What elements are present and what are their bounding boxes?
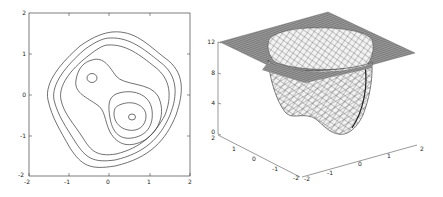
contour-plot: -2 -1 0 1 2 2 1 0 -1 -2 [0, 0, 220, 197]
y-tick-label: 2 [22, 9, 26, 16]
x-tick-label: -1 [64, 178, 70, 185]
global-min-contour [129, 114, 136, 120]
x-tick-label: -2 [304, 175, 310, 182]
x-tick-label: -2 [24, 178, 30, 185]
y-tick-label: 0 [22, 91, 26, 98]
x-tick-label: 0 [358, 160, 362, 167]
y-tick-label: -2 [293, 174, 299, 181]
contour-lines [47, 32, 181, 168]
x-tick-label: 1 [147, 178, 151, 185]
x-tick-label: 2 [420, 145, 424, 152]
y-tick-label: -2 [18, 171, 24, 178]
y-tick-label: -1 [20, 132, 26, 139]
x-tick-label: 1 [387, 152, 391, 159]
surface-plot: 12 8 4 0 2 1 0 -1 -2 -2 -1 0 1 2 [195, 0, 443, 197]
x-tick-label: -1 [327, 169, 333, 176]
x-tick-label: 0 [106, 178, 110, 185]
z-tick-label: 12 [207, 38, 215, 45]
x-tick-label: 2 [188, 178, 192, 185]
y-tick-label: 1 [22, 50, 26, 57]
z-tick-label: 8 [211, 69, 215, 76]
y-tick-label: 0 [252, 155, 256, 162]
y-tick-label: -1 [272, 165, 278, 172]
y-tick-label: 2 [211, 134, 215, 141]
local-min-contour [87, 74, 97, 83]
z-tick-label: 4 [211, 99, 215, 106]
surface-plot-svg: 12 8 4 0 2 1 0 -1 -2 -2 -1 0 1 2 [195, 0, 443, 197]
surface-well-opening [268, 28, 373, 70]
y-axis [218, 135, 300, 177]
y-tick-label: 1 [232, 145, 236, 152]
contour-plot-svg: -2 -1 0 1 2 2 1 0 -1 -2 [0, 0, 220, 197]
contour-axes-box [29, 13, 190, 176]
